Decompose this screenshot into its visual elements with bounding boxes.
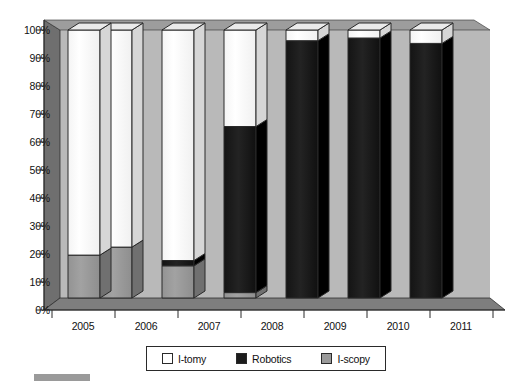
y-tick-label: 50%	[12, 165, 50, 175]
bar-2011	[410, 23, 453, 298]
y-tick-label: 90%	[12, 53, 50, 63]
bar-2009	[286, 23, 329, 298]
page-corner-mark	[34, 374, 90, 381]
legend-swatch-iscopy	[321, 353, 332, 364]
legend-label-iscopy: I-scopy	[337, 353, 369, 365]
y-tick-label: 40%	[12, 193, 50, 203]
x-tick-label-2011: 2011	[436, 320, 486, 332]
y-tick-label: 60%	[12, 137, 50, 147]
stacked-bar-chart-plot	[0, 0, 505, 340]
chart-container: 100% 90% 80% 70% 60% 50% 40% 30% 20% 10%…	[0, 0, 505, 383]
legend-entry-iscopy[interactable]: I-scopy	[321, 353, 369, 365]
x-tick-label-2009: 2009	[310, 320, 360, 332]
bar-2008	[224, 23, 267, 298]
legend-entry-itomy[interactable]: I-tomy	[162, 353, 206, 365]
y-tick-label: 10%	[12, 277, 50, 287]
plot-floor	[44, 298, 505, 310]
y-tick-label: 80%	[12, 81, 50, 91]
y-tick-label: 30%	[12, 221, 50, 231]
y-axis-labels: 100% 90% 80% 70% 60% 50% 40% 30% 20% 10%…	[0, 0, 50, 383]
x-tick-label-2008: 2008	[247, 320, 297, 332]
legend-swatch-robotics	[236, 353, 247, 364]
x-axis	[44, 310, 505, 318]
chart-legend: I-tomy Robotics I-scopy	[146, 346, 386, 371]
x-tick-label-2005: 2005	[58, 320, 108, 332]
bar-2010	[348, 23, 391, 298]
legend-swatch-itomy	[162, 353, 173, 364]
legend-entry-robotics[interactable]: Robotics	[236, 353, 291, 365]
y-tick-label: 100%	[12, 25, 50, 35]
legend-label-robotics: Robotics	[252, 353, 291, 365]
x-tick-label-2006: 2006	[121, 320, 171, 332]
bar-2007	[162, 23, 205, 298]
legend-label-itomy: I-tomy	[178, 353, 206, 365]
y-tick-label: 70%	[12, 109, 50, 119]
y-tick-label: 0%	[12, 305, 50, 315]
bar-2005	[68, 23, 111, 298]
x-tick-label-2010: 2010	[373, 320, 423, 332]
x-tick-label-2007: 2007	[184, 320, 234, 332]
y-tick-label: 20%	[12, 249, 50, 259]
